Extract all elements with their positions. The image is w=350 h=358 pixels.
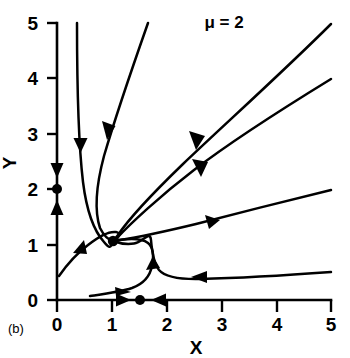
trajectory-5-right-shallow bbox=[113, 190, 331, 241]
x-axis-flow-arrow-right bbox=[116, 294, 131, 307]
trajectory-5-arrow bbox=[205, 215, 220, 229]
x-tick-label-0: 0 bbox=[52, 314, 63, 335]
y-axis-label: Y bbox=[0, 156, 20, 169]
y-axis-flow-arrow-down bbox=[51, 163, 64, 178]
fixed-point-x-axis bbox=[135, 295, 145, 305]
x-tick-label-5: 5 bbox=[326, 314, 337, 335]
x-axis-ticks bbox=[57, 300, 331, 312]
y-tick-label-1: 1 bbox=[27, 235, 38, 256]
x-tick-label-3: 3 bbox=[217, 314, 228, 335]
trajectory-3-upper-right-steep bbox=[113, 24, 331, 241]
panel-label: (b) bbox=[8, 321, 24, 336]
trajectory-7-arrow-up bbox=[146, 256, 160, 270]
phase-portrait-figure: 5 4 3 2 1 0 0 1 2 3 4 5 Y X μ = 2 (b) bbox=[0, 0, 350, 358]
trajectory-group bbox=[51, 23, 332, 307]
x-axis-flow-arrow-left bbox=[151, 294, 166, 307]
phase-portrait-svg: 5 4 3 2 1 0 0 1 2 3 4 5 Y X μ = 2 (b) bbox=[0, 0, 350, 358]
y-axis-ticks bbox=[47, 23, 57, 300]
x-tick-label-4: 4 bbox=[272, 314, 283, 335]
trajectory-4-arrow bbox=[192, 159, 208, 177]
x-axis-label: X bbox=[190, 337, 203, 358]
x-tick-label-2: 2 bbox=[162, 314, 173, 335]
y-axis-flow-arrow-up bbox=[51, 200, 64, 215]
parameter-annotation: μ = 2 bbox=[204, 13, 243, 32]
fixed-point-interior-node bbox=[108, 236, 118, 246]
y-tick-label-3: 3 bbox=[27, 124, 38, 145]
y-tick-label-5: 5 bbox=[27, 13, 38, 34]
trajectory-8-arrow bbox=[73, 240, 87, 254]
y-tick-label-4: 4 bbox=[27, 68, 38, 89]
y-tick-label-0: 0 bbox=[27, 290, 38, 311]
trajectory-1-arrow bbox=[74, 138, 88, 153]
y-tick-labels: 5 4 3 2 1 0 bbox=[27, 13, 38, 311]
x-tick-labels: 0 1 2 3 4 5 bbox=[52, 314, 337, 335]
trajectory-6-arrow bbox=[191, 271, 207, 283]
trajectory-7-bottom-left-rise bbox=[90, 239, 153, 296]
x-tick-label-1: 1 bbox=[107, 314, 118, 335]
y-tick-label-2: 2 bbox=[27, 179, 38, 200]
fixed-point-y-axis bbox=[52, 184, 62, 194]
